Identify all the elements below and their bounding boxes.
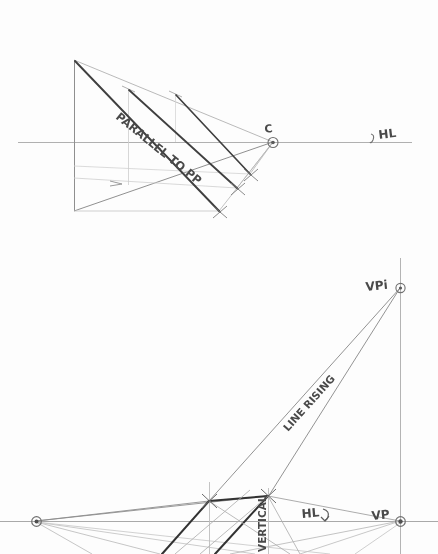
rising-line-right: [268, 288, 400, 497]
vp-label: VP: [371, 507, 391, 523]
rising-line-left: [209, 288, 400, 501]
lower-hl-label: HL: [301, 505, 320, 521]
upper-hl-tick: [370, 134, 374, 143]
vp-dot: [398, 519, 402, 523]
perspective-drawing-canvas: PARALLEL TO PP C HL VPi VP HL LINE RISIN…: [0, 0, 438, 554]
upper-guide-mid: [74, 178, 237, 188]
upper-hl-label: HL: [378, 126, 398, 142]
left-vp-ray-group: [36, 496, 330, 554]
station-point-c-dot: [271, 141, 275, 145]
left-vp-dot: [35, 520, 39, 524]
lower-hl-arrow: [321, 509, 329, 521]
upper-construction-lines: [74, 60, 273, 211]
upper-parallel-to-pp-lines: [75, 61, 251, 212]
vpi-label: VPi: [365, 278, 389, 294]
upper-arrowhead-mark: [110, 184, 122, 186]
left-vp-ray-down-1: [36, 522, 160, 554]
upper-hl-hook: [370, 134, 374, 143]
vpi-dot: [399, 286, 402, 289]
upper-arrowhead-mark-2: [110, 181, 122, 184]
parallel-to-pp-label: PARALLEL TO PP: [113, 109, 204, 187]
line-rising-label: LINE RISING: [281, 372, 337, 433]
left-vp-ray-down-3: [36, 522, 330, 554]
line-rising-group: [209, 288, 400, 501]
upper-guide-upper: [74, 166, 250, 174]
right-vp-ray-down-3: [355, 523, 400, 554]
station-point-c-label: C: [264, 122, 274, 136]
vertical-label: VERTICAL: [256, 495, 268, 552]
left-vp-ray-down-2: [36, 522, 255, 554]
drawing-sheet: PARALLEL TO PP C HL VPi VP HL LINE RISIN…: [0, 0, 438, 554]
